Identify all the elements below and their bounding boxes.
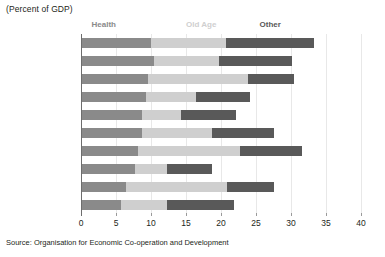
bar-segment-other[interactable]: [167, 164, 212, 174]
x-tick-label: 30: [286, 218, 295, 228]
x-tick-mark: [116, 213, 117, 216]
bar-segment-old-age[interactable]: [146, 92, 196, 102]
chart-legend: HealthOld AgeOther: [81, 20, 381, 32]
bar-segment-other[interactable]: [219, 56, 292, 66]
bar-segment-health[interactable]: [81, 92, 146, 102]
bar-segment-health[interactable]: [81, 146, 138, 156]
chart-row: Canada: [81, 160, 361, 178]
bar-segment-other[interactable]: [212, 128, 274, 138]
stacked-bar[interactable]: [81, 38, 314, 48]
stacked-bar[interactable]: [81, 182, 274, 192]
x-tick-mark: [151, 213, 152, 216]
chart-row: Spain: [81, 124, 361, 142]
x-axis: 0510152025303540: [81, 216, 361, 230]
bar-segment-health[interactable]: [81, 128, 142, 138]
bar-segment-other[interactable]: [248, 74, 294, 84]
bar-segment-old-age[interactable]: [142, 110, 181, 120]
stacked-bar[interactable]: [81, 74, 294, 84]
stacked-bar[interactable]: [81, 56, 292, 66]
stacked-bar[interactable]: [81, 92, 250, 102]
bar-segment-other[interactable]: [226, 38, 314, 48]
x-tick-mark: [326, 213, 327, 216]
x-tick-mark: [186, 213, 187, 216]
source-note: Source: Organisation for Economic Co-ope…: [6, 238, 229, 247]
stacked-bar[interactable]: [81, 128, 274, 138]
x-tick-label: 35: [321, 218, 330, 228]
bar-segment-old-age[interactable]: [142, 128, 212, 138]
chart-row: Norway: [81, 52, 361, 70]
x-tick-mark: [256, 213, 257, 216]
bar-segment-other[interactable]: [240, 146, 302, 156]
x-tick-label: 40: [356, 218, 365, 228]
chart-row: France: [81, 70, 361, 88]
bar-segment-old-age[interactable]: [148, 74, 248, 84]
x-tick-label: 5: [114, 218, 119, 228]
stacked-bar[interactable]: [81, 164, 212, 174]
stacked-bar[interactable]: [81, 200, 234, 210]
bar-segment-health[interactable]: [81, 110, 142, 120]
bar-segment-other[interactable]: [227, 182, 274, 192]
bar-segment-health[interactable]: [81, 200, 121, 210]
x-tick-label: 0: [79, 218, 84, 228]
chart-row: Netherlands: [81, 196, 361, 214]
x-tick-label: 20: [216, 218, 225, 228]
plot-area: BelgiumNorwayFranceUnited KingdomAustral…: [81, 34, 361, 216]
bar-segment-health[interactable]: [81, 164, 135, 174]
bar-segment-old-age[interactable]: [121, 200, 167, 210]
x-tick-label: 15: [181, 218, 190, 228]
x-tick-label: 10: [146, 218, 155, 228]
axis-line-zero: [81, 34, 82, 216]
bar-segment-old-age[interactable]: [135, 164, 167, 174]
legend-item-other: Other: [260, 20, 281, 29]
bar-segment-old-age[interactable]: [151, 38, 226, 48]
stacked-bar[interactable]: [81, 110, 236, 120]
bar-segment-old-age[interactable]: [138, 146, 240, 156]
bar-segment-health[interactable]: [81, 74, 148, 84]
bar-segment-health[interactable]: [81, 182, 126, 192]
bar-segment-old-age[interactable]: [154, 56, 219, 66]
bar-segment-old-age[interactable]: [126, 182, 228, 192]
x-tick-label: 25: [251, 218, 260, 228]
x-tick-mark: [221, 213, 222, 216]
bar-segment-other[interactable]: [196, 92, 250, 102]
chart-row: Belgium: [81, 34, 361, 52]
bar-segment-health[interactable]: [81, 56, 154, 66]
unit-note: (Percent of GDP): [6, 4, 73, 14]
legend-item-old-age: Old Age: [186, 20, 216, 29]
chart-row: Italy: [81, 142, 361, 160]
legend-item-health: Health: [92, 20, 116, 29]
bar-segment-other[interactable]: [167, 200, 234, 210]
bar-segment-other[interactable]: [181, 110, 236, 120]
chart-row: United Kingdom: [81, 88, 361, 106]
gridline: [361, 34, 362, 216]
x-tick-mark: [291, 213, 292, 216]
chart-row: Greece: [81, 178, 361, 196]
chart-row: Australia: [81, 106, 361, 124]
bar-segment-health[interactable]: [81, 38, 151, 48]
x-tick-mark: [361, 213, 362, 216]
chart-container: (Percent of GDP) HealthOld AgeOther Belg…: [0, 0, 385, 257]
stacked-bar[interactable]: [81, 146, 302, 156]
